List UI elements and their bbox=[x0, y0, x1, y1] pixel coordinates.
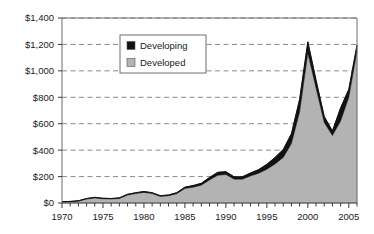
x-tick-label: 1975 bbox=[92, 211, 113, 222]
y-axis: $0$200$400$600$800$1,000$1,200$1,400 bbox=[25, 12, 62, 208]
x-tick-label: 2000 bbox=[297, 211, 318, 222]
chart-legend: Developing Developed bbox=[120, 35, 206, 73]
legend-label-developing: Developing bbox=[140, 40, 188, 51]
y-tick-label: $200 bbox=[33, 171, 54, 182]
y-tick-label: $1,000 bbox=[25, 65, 54, 76]
y-tick-label: $400 bbox=[33, 145, 54, 156]
x-tick-label: 1980 bbox=[133, 211, 154, 222]
y-tick-label: $600 bbox=[33, 118, 54, 129]
y-tick-label: $1,400 bbox=[25, 12, 54, 23]
x-tick-label: 1985 bbox=[174, 211, 195, 222]
x-tick-label: 2005 bbox=[338, 211, 359, 222]
x-tick-label: 1990 bbox=[215, 211, 236, 222]
y-tick-label: $0 bbox=[43, 197, 54, 208]
x-tick-label: 1970 bbox=[51, 211, 72, 222]
y-tick-label: $800 bbox=[33, 92, 54, 103]
legend-label-developed: Developed bbox=[140, 57, 185, 68]
x-tick-label: 1995 bbox=[256, 211, 277, 222]
chart-canvas: $0$200$400$600$800$1,000$1,200$1,400 197… bbox=[0, 0, 374, 234]
area-chart: $0$200$400$600$800$1,000$1,200$1,400 197… bbox=[0, 0, 374, 234]
gray-square-icon bbox=[127, 59, 135, 67]
x-axis: 19701975198019851990199520002005 bbox=[51, 203, 359, 222]
black-square-icon bbox=[127, 42, 135, 50]
y-tick-label: $1,200 bbox=[25, 39, 54, 50]
